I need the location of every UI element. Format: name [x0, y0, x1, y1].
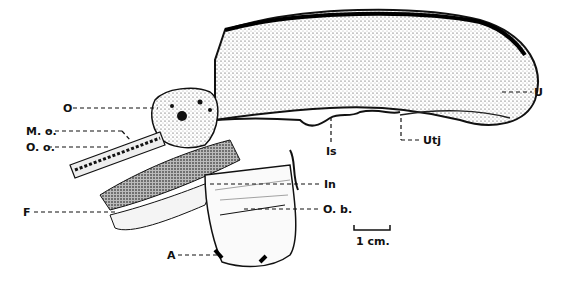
label-Utj: Utj [423, 135, 441, 146]
drawing [0, 0, 562, 283]
label-Mo: M. o. [26, 126, 57, 137]
label-O: O [63, 103, 72, 114]
label-U: U [534, 87, 543, 98]
scale-bar [354, 225, 390, 230]
scale-bar-label: 1 cm. [356, 236, 390, 247]
label-Oo: O. o. [26, 142, 55, 153]
label-Ob: O. b. [323, 204, 352, 215]
label-Is: Is [326, 146, 337, 157]
anatomical-figure: O M. o. O. o. F A In O. b. Is Utj U 1 cm… [0, 0, 562, 283]
label-F: F [23, 207, 31, 218]
label-A: A [167, 250, 176, 261]
label-In: In [324, 179, 336, 190]
